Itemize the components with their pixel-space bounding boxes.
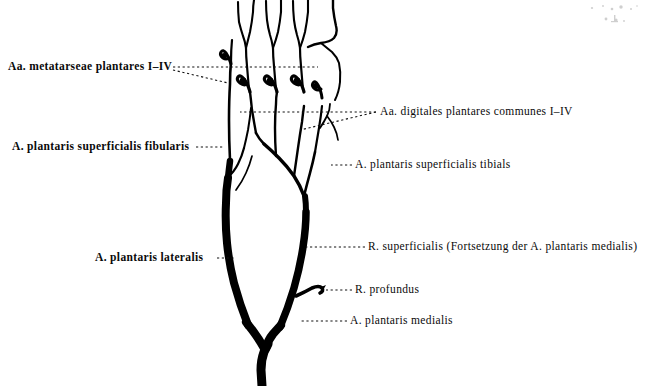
leader-digitales-branch [300, 112, 376, 130]
label-r-superficialis: R. superficialis (Fortsetzung der A. pla… [368, 241, 637, 253]
fibularis-hook [220, 51, 231, 64]
metatarsal-trunk-3 [294, 106, 304, 176]
aa-metatarseae-plantares-III [291, 48, 304, 92]
leader-lines [173, 67, 376, 321]
label-a-plantaris-lateralis: A. plantaris lateralis [95, 252, 203, 264]
aa-digitales-plantares-communes-II [266, 0, 281, 48]
label-r-profundus: R. profundus [355, 284, 419, 296]
aa-metatarseae-plantares-I [237, 48, 250, 92]
label-aa-digitales-plantares-communes: Aa. digitales plantares communes I–IV [380, 106, 573, 118]
aa-digitales-plantares-communes-I [238, 0, 254, 48]
a-plantaris-lateralis-vessel [226, 161, 248, 325]
label-aa-metatarseae-plantares: Aa. metatarseae plantares I–IV [8, 61, 172, 73]
artery-tree-diagram [0, 0, 649, 386]
metatarsal-trunk-2 [275, 92, 277, 156]
aa-metatarseae-plantares-II [264, 48, 277, 92]
anatomical-figure: Aa. metatarseae plantares I–IV A. planta… [0, 0, 649, 386]
r-superficialis-vessel [280, 196, 306, 327]
metatarsal-trunk-4 [315, 106, 322, 152]
r-profundus-branch [296, 285, 326, 296]
label-a-plantaris-medialis: A. plantaris medialis [350, 315, 453, 327]
aa-digitales-plantares-communes-III [293, 0, 308, 48]
leader-metatarseae-lower [173, 70, 228, 83]
aa-metatarseae-plantares-IV [312, 82, 322, 98]
plantar-arch [256, 133, 315, 196]
label-a-plantaris-superficialis-fibularis: A. plantaris superficialis fibularis [12, 141, 189, 153]
label-a-plantaris-superficialis-tibials: A. plantaris superficialis tibials [355, 159, 511, 171]
